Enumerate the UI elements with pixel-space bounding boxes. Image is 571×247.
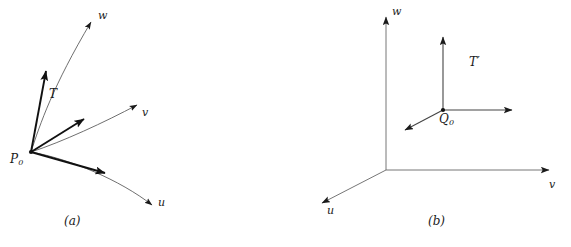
- u-axis: [322, 170, 386, 203]
- label-q0: Q0: [439, 113, 454, 127]
- label-tangent-frame-t-prime: T′: [469, 56, 480, 68]
- label-axis-w: w: [392, 6, 401, 17]
- v-curve: [31, 105, 137, 152]
- panel-a-graphics: [29, 22, 152, 205]
- figure-container: P0 T w v u (a) Q0 T′ w v u (b): [0, 0, 571, 247]
- caption-panel-a: (a): [64, 215, 81, 227]
- tangent-vector-u: [31, 152, 105, 173]
- base-point-p0: [29, 150, 33, 154]
- diagram-canvas: [0, 0, 571, 247]
- label-p0: P0: [10, 153, 23, 167]
- label-curve-w: w: [98, 10, 107, 21]
- prime-mark: ′: [477, 55, 480, 69]
- u-curve: [31, 152, 152, 205]
- label-curve-v: v: [142, 107, 148, 118]
- label-axis-u: u: [327, 205, 334, 216]
- frame-vector-u: [405, 110, 443, 130]
- label-tangent-frame-t: T: [49, 88, 57, 100]
- label-axis-v: v: [549, 179, 555, 190]
- caption-panel-b: (b): [428, 215, 445, 227]
- tangent-vector-w: [31, 71, 46, 152]
- tangent-vector-v: [31, 119, 84, 152]
- label-curve-u: u: [158, 197, 165, 208]
- label-q0-subscript: 0: [449, 118, 454, 127]
- label-p0-subscript: 0: [18, 158, 23, 167]
- panel-b-graphics: [322, 17, 549, 203]
